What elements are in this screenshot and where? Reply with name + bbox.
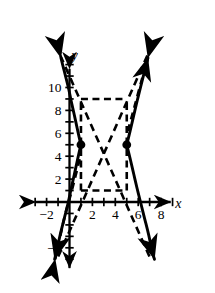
y-axis-label: y — [70, 48, 79, 63]
x-tick-label: 2 — [89, 207, 96, 222]
hyperbola-graph: −22468−4246810 xy — [0, 0, 215, 293]
x-tick-label: −2 — [39, 207, 53, 222]
y-tick-label: 4 — [55, 149, 62, 164]
y-tick-label: 6 — [55, 126, 62, 141]
vertex-point — [122, 140, 131, 149]
vertex-point — [77, 140, 86, 149]
y-tick-label: 8 — [55, 103, 62, 118]
y-tick-label: −4 — [47, 241, 62, 256]
x-tick-label: 4 — [112, 207, 119, 222]
x-tick-label: 8 — [158, 207, 165, 222]
graph-canvas: −22468−4246810 xy — [0, 0, 215, 293]
x-tick-label: 6 — [135, 207, 142, 222]
chart-background — [0, 0, 215, 293]
y-tick-label: 2 — [55, 172, 62, 187]
y-tick-label: 10 — [48, 80, 62, 95]
x-axis-label: x — [174, 196, 182, 211]
